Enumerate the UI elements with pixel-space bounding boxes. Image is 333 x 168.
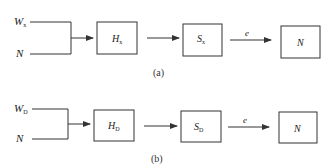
caption-a: (a) [153,67,164,79]
input-merge-lines [30,22,71,54]
block-s-label: SD [194,121,204,133]
input-n-label: N [15,47,24,59]
input-n-label: N [15,132,24,144]
block-s-label: Sx [197,33,205,45]
input-w-label: WD [14,102,28,115]
block-n-label: N [296,37,305,48]
block-diagram-canvas: Wx N Hx Sx e N (a) WD N HD SD e N (b) [0,0,333,168]
edge-e-label: e [243,115,247,125]
diagram-b: WD N HD SD e N (b) [14,102,317,165]
block-n-label: N [293,123,302,134]
diagram-a: Wx N Hx Sx e N (a) [14,15,320,79]
input-w-label: Wx [14,15,26,28]
caption-b: (b) [151,153,163,165]
block-h-label: Hx [111,33,122,45]
input-merge-lines [32,109,68,139]
edge-e-label: e [245,28,249,38]
block-h-label: HD [107,120,120,132]
